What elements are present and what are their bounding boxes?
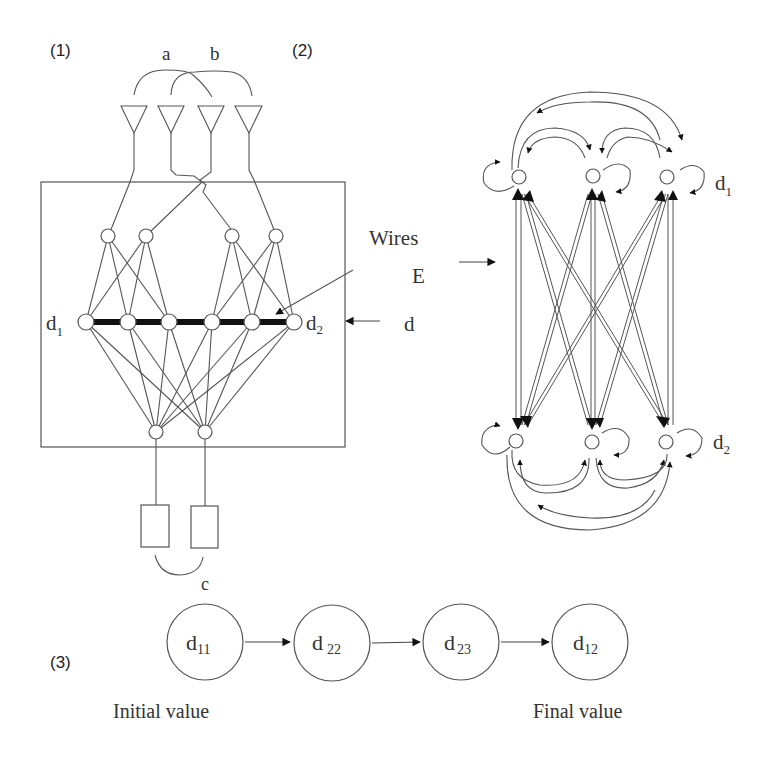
node bbox=[286, 314, 302, 330]
node bbox=[659, 435, 673, 449]
label-d1: d1 bbox=[46, 311, 63, 339]
node bbox=[586, 169, 600, 183]
node bbox=[204, 314, 220, 330]
node bbox=[512, 170, 526, 184]
lower-nodes bbox=[149, 425, 212, 439]
node bbox=[269, 229, 283, 243]
upper-nodes bbox=[101, 229, 283, 243]
node bbox=[244, 314, 260, 330]
antenna-icon bbox=[198, 106, 224, 133]
arc-label-b: b bbox=[210, 43, 220, 64]
antenna-icon bbox=[158, 106, 184, 133]
node bbox=[139, 229, 153, 243]
arc-b bbox=[171, 71, 252, 96]
node bbox=[660, 170, 674, 184]
arc-label-a: a bbox=[162, 43, 171, 64]
output-box bbox=[141, 505, 169, 547]
chain-arrow-icon bbox=[372, 642, 420, 643]
antenna-icon bbox=[121, 106, 147, 133]
node bbox=[78, 314, 94, 330]
panel-3: (3) d11 d22 d23 d12 Initial value Final … bbox=[50, 604, 628, 722]
wire-mesh bbox=[516, 194, 673, 425]
wires-label: Wires bbox=[369, 226, 418, 250]
panel-2: (2) bbox=[292, 41, 732, 530]
node bbox=[509, 434, 523, 448]
diagram-canvas: (1) a b bbox=[0, 0, 775, 762]
node bbox=[120, 314, 136, 330]
panel-1: (1) a b bbox=[41, 41, 495, 594]
antennas bbox=[110, 106, 275, 232]
lower-connections bbox=[86, 322, 294, 432]
arc-c bbox=[155, 555, 203, 575]
node bbox=[225, 229, 239, 243]
node bbox=[585, 435, 599, 449]
arc-label-c: c bbox=[201, 574, 209, 594]
node bbox=[161, 314, 177, 330]
panel-3-label: (3) bbox=[50, 653, 71, 672]
input-label-d: d bbox=[404, 312, 415, 336]
output-box bbox=[191, 506, 218, 548]
panel-2-label: (2) bbox=[292, 41, 313, 60]
antenna-icon bbox=[235, 106, 262, 133]
upper-connections bbox=[86, 236, 294, 322]
initial-value-label: Initial value bbox=[113, 700, 209, 722]
panel-1-label: (1) bbox=[50, 41, 71, 60]
label-bottom-row-d2: d2 bbox=[713, 430, 730, 457]
label-top-row-d1: d1 bbox=[715, 171, 732, 199]
label-d2: d2 bbox=[306, 311, 323, 337]
e-label: E bbox=[412, 264, 425, 288]
node bbox=[149, 425, 163, 439]
node bbox=[198, 425, 212, 439]
node bbox=[101, 229, 115, 243]
final-value-label: Final value bbox=[533, 700, 623, 722]
